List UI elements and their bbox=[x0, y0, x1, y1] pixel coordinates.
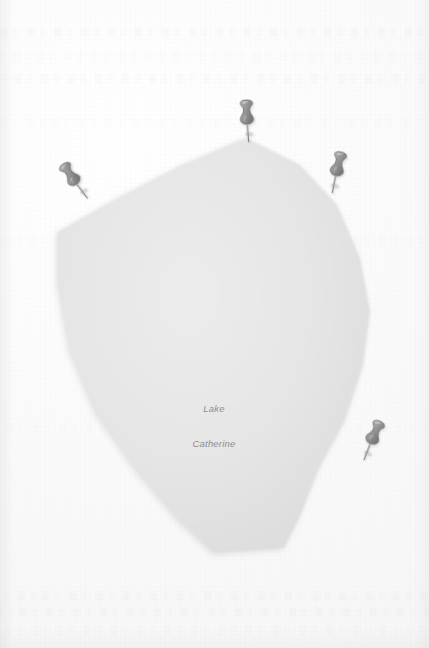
lake-label-line-2: Catherine bbox=[174, 438, 254, 450]
map-pin-north-icon[interactable] bbox=[232, 98, 264, 145]
lake-shape-group bbox=[56, 138, 370, 555]
lake-polygon-layer bbox=[0, 0, 429, 648]
map-canvas[interactable]: Lake Catherine bbox=[0, 0, 429, 648]
lake-label: Lake Catherine bbox=[174, 380, 254, 472]
lake-label-line-1: Lake bbox=[174, 403, 254, 415]
lake-shape bbox=[58, 138, 370, 553]
